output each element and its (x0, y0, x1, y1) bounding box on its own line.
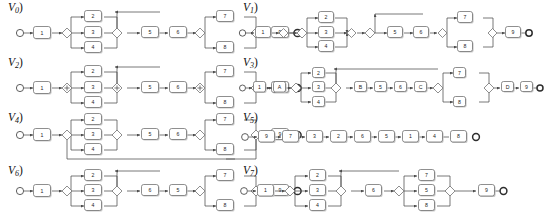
activity-node: 4 (427, 131, 444, 144)
svg-text:1: 1 (41, 132, 44, 138)
svg-text:6: 6 (420, 29, 423, 35)
panel-v5: V5) 9 7 3 2 6 5 (235, 110, 469, 163)
svg-text:3: 3 (317, 84, 320, 90)
svg-text:3: 3 (313, 133, 316, 139)
svg-text:1: 1 (41, 85, 44, 91)
activity-node: 2 (85, 66, 103, 78)
gateway-split (394, 186, 404, 196)
activity-node: 2 (85, 11, 103, 23)
gateway-join (112, 130, 122, 140)
activity-node: 2 (331, 131, 348, 144)
svg-text:3: 3 (92, 187, 95, 193)
activity-node: 1 (403, 131, 420, 144)
gateway-join (488, 29, 497, 38)
svg-text:6: 6 (177, 84, 180, 90)
activity-node: 4 (85, 144, 103, 156)
activity-node: 5 (375, 82, 388, 93)
gateway-split (195, 130, 205, 140)
panel-v2: V2) (0, 55, 235, 110)
svg-text:4: 4 (92, 202, 95, 208)
gateway-join (112, 28, 122, 38)
svg-text:3: 3 (92, 131, 95, 137)
panel-v4: V4) (0, 110, 235, 163)
activity-node: 4 (319, 41, 335, 53)
diagram-v7-tail: 9 (461, 163, 548, 223)
svg-text:C: C (419, 84, 423, 90)
gateway-split (438, 29, 447, 38)
svg-text:4: 4 (433, 133, 436, 139)
gateway-split (433, 83, 443, 93)
activity-node: 6 (366, 185, 383, 198)
svg-text:3: 3 (325, 29, 328, 35)
svg-text:6: 6 (177, 131, 180, 137)
svg-text:B: B (359, 84, 363, 90)
activity-node: 3 (85, 129, 103, 141)
gateway-split (62, 186, 72, 196)
end-event-v3 (537, 85, 543, 91)
activity-node: 8 (419, 200, 436, 212)
gateway-split (291, 83, 301, 93)
diagram-v6: 1 2 3 4 6 5 7 8 (0, 163, 235, 223)
activity-node: 9 (506, 27, 522, 39)
gateway-join (484, 83, 494, 93)
activity-node: 3 (85, 27, 103, 39)
panel-v3: V3) (235, 55, 469, 110)
gateway-split (297, 28, 307, 38)
activity-node: B (355, 82, 368, 93)
svg-text:5: 5 (394, 29, 397, 35)
activity-node: 7 (419, 170, 436, 182)
svg-text:1: 1 (262, 29, 265, 35)
svg-text:1: 1 (258, 84, 261, 90)
gateway-split (279, 29, 288, 38)
diagram-v5: 9 7 3 2 6 5 1 4 8 (235, 110, 469, 163)
activity-node: 5 (142, 129, 160, 141)
activity-node: 1 (258, 185, 275, 198)
activity-node: 1 (34, 27, 52, 40)
activity-node: 1 (256, 27, 272, 39)
svg-text:9: 9 (485, 187, 488, 193)
svg-text:7: 7 (289, 133, 292, 139)
activity-node: 5 (170, 185, 188, 197)
activity-node: 5 (142, 27, 160, 39)
diagram-v5-tail (461, 110, 521, 163)
gateway-join (331, 83, 341, 93)
gateway-parallel-join (112, 83, 122, 93)
activity-node: 2 (310, 170, 327, 182)
svg-text:5: 5 (177, 187, 180, 193)
activity-node: 9 (521, 82, 534, 93)
panel-v0: V0) (0, 0, 235, 55)
svg-text:9: 9 (512, 29, 515, 35)
activity-node: 6 (355, 131, 372, 144)
gateway-split (285, 186, 295, 196)
activity-node: 6 (170, 129, 188, 141)
activity-node: 2 (85, 170, 103, 182)
activity-node: 5 (142, 82, 160, 94)
start-event-v6 (16, 187, 23, 194)
gateway-parallel-split (62, 83, 72, 93)
activity-node: D (502, 82, 515, 93)
panel-v1: V1) (235, 0, 469, 55)
svg-text:6: 6 (399, 84, 402, 90)
activity-node: 1 (34, 82, 52, 95)
activity-node: 3 (307, 131, 324, 144)
svg-text:1: 1 (41, 188, 44, 194)
activity-node: A (274, 82, 287, 94)
activity-node: 1 (34, 185, 52, 198)
svg-text:1: 1 (41, 30, 44, 36)
start-event-v5 (242, 134, 249, 141)
activity-node: 6 (170, 82, 188, 94)
svg-text:2: 2 (317, 70, 320, 76)
gateway-join (336, 186, 346, 196)
start-event-v7 (241, 188, 248, 195)
svg-text:2: 2 (92, 172, 95, 178)
activity-node: 9 (259, 131, 276, 144)
activity-node: 3 (85, 185, 103, 197)
diagram-v3-tail: D 9 (461, 55, 548, 110)
svg-text:6: 6 (361, 133, 364, 139)
activity-node: 6 (414, 27, 430, 39)
svg-text:5: 5 (149, 131, 152, 137)
activity-node: 4 (313, 97, 326, 108)
activity-node: 4 (85, 200, 103, 212)
svg-text:8: 8 (425, 202, 428, 208)
svg-text:D: D (506, 84, 510, 90)
